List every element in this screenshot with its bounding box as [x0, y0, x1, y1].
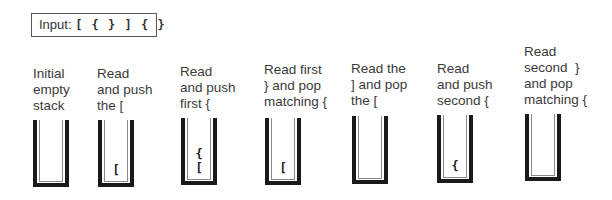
- step-5-stack: [352, 116, 388, 184]
- stack-inner-wall: [358, 116, 382, 179]
- step-1-caption: Initial empty stack: [33, 66, 70, 114]
- input-sequence-box: Input: [ { } ] { }: [31, 13, 157, 37]
- stack-item: {: [181, 147, 217, 161]
- input-label: Input:: [39, 17, 72, 32]
- input-sequence: [ { } ] { }: [75, 18, 165, 32]
- step-6-stack: {: [437, 115, 473, 183]
- stack-item: [: [181, 161, 217, 175]
- step-6-caption: Read and push second {: [437, 61, 493, 109]
- stack-item: [: [265, 161, 301, 175]
- stack-item: {: [437, 159, 473, 173]
- step-2-stack: [: [98, 120, 134, 187]
- step-3-stack: [ {: [181, 118, 217, 185]
- stack-item: [: [98, 163, 134, 177]
- step-7-caption: Read second } and pop matching {: [524, 44, 587, 108]
- step-1-stack: [33, 120, 69, 187]
- step-7-stack: [525, 114, 561, 181]
- stack-inner-wall: [39, 120, 63, 182]
- stack-inner-wall: [531, 114, 555, 176]
- step-5-caption: Read the ] and pop the [: [351, 61, 407, 109]
- step-4-stack: [: [265, 118, 301, 185]
- step-3-caption: Read and push first {: [180, 64, 236, 112]
- step-2-caption: Read and push the [: [97, 66, 153, 114]
- step-4-caption: Read first } and pop matching {: [264, 62, 327, 110]
